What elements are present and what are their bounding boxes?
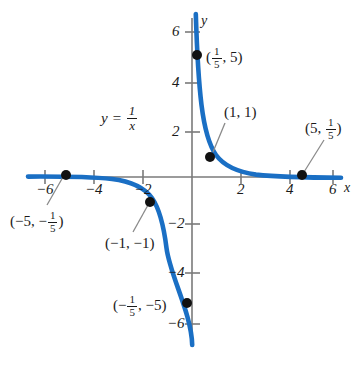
- point-label-p3-denominator: 5: [326, 130, 336, 142]
- point-label-p3-fraction: 1 5: [326, 117, 336, 141]
- x-axis-label: x: [344, 181, 350, 195]
- equation-denominator: x: [127, 119, 138, 133]
- point-label-p4-numerator: 1: [48, 210, 58, 223]
- y-tick-label-neg4: −4: [167, 265, 185, 280]
- point-label-p1-numerator: 1: [212, 46, 222, 59]
- point-label-p1-fraction: 1 5: [212, 46, 222, 70]
- axes-group: [28, 18, 341, 343]
- point-label-p1-rest: , 5): [223, 49, 243, 65]
- point-p5: [145, 197, 155, 207]
- equation-lhs: y: [101, 110, 108, 126]
- point-label-p4-denominator: 5: [48, 223, 58, 235]
- x-tick-label-pos4: 4: [286, 182, 294, 197]
- x-tick-label-neg6: −6: [36, 182, 54, 197]
- point-label-p2: (1, 1): [224, 105, 257, 120]
- point-label-p1: ( 1 5 , 5): [206, 47, 243, 71]
- point-p2: [205, 152, 215, 162]
- plot-canvas: [0, 0, 360, 367]
- point-label-p6-numerator: 1: [127, 294, 137, 307]
- point-label-p6-fraction: 1 5: [127, 294, 137, 318]
- point-label-p3-numerator: 1: [326, 117, 336, 130]
- x-tick-label-neg4: −4: [85, 182, 103, 197]
- point-p3: [297, 170, 307, 180]
- point-label-p3: (5, 1 5 ): [305, 118, 342, 142]
- equation-label: y= 1 x: [101, 105, 138, 133]
- point-label-p3-open: (5,: [305, 120, 325, 136]
- point-label-p6: (− 1 5 , −5): [113, 295, 166, 319]
- equation-fraction: 1 x: [127, 104, 138, 132]
- x-tick-label-neg2: −2: [134, 182, 152, 197]
- graph-figure: −6 −4 −2 2 4 6 6 4 2 −2 −4 −6 y x y= 1 x…: [0, 0, 360, 367]
- point-p1: [192, 50, 202, 60]
- y-axis-label: y: [201, 14, 207, 28]
- curve-branch-positive: [196, 14, 341, 178]
- y-tick-label-neg6: −6: [167, 316, 185, 331]
- equation-numerator: 1: [127, 104, 138, 119]
- y-tick-label-pos6: 6: [172, 24, 180, 39]
- point-label-p5: (−1, −1): [105, 236, 154, 251]
- leader-line-p3: [304, 140, 324, 172]
- x-tick-label-pos2: 2: [237, 182, 245, 197]
- point-label-p4-fraction: 1 5: [48, 210, 58, 234]
- leader-line-p5: [133, 205, 148, 232]
- point-label-p4: (−5, − 1 5 ): [10, 211, 63, 235]
- point-label-p6-denominator: 5: [127, 307, 137, 319]
- equation-equals: =: [112, 110, 122, 126]
- point-p4: [61, 170, 71, 180]
- point-label-p1-open: (: [206, 49, 211, 65]
- point-label-p3-rest: ): [337, 120, 342, 136]
- point-label-p6-rest: , −5): [138, 297, 166, 313]
- y-tick-label-neg2: −2: [167, 216, 185, 231]
- point-label-p6-open: (−: [113, 297, 126, 313]
- point-label-p4-open: (−5, −: [10, 213, 47, 229]
- point-p6: [182, 298, 192, 308]
- y-tick-label-pos2: 2: [172, 124, 180, 139]
- x-tick-label-pos6: 6: [329, 182, 337, 197]
- point-label-p1-denominator: 5: [212, 59, 222, 71]
- y-tick-label-pos4: 4: [172, 75, 180, 90]
- point-label-p4-rest: ): [58, 213, 63, 229]
- leader-line-p2: [213, 123, 225, 152]
